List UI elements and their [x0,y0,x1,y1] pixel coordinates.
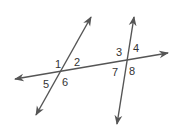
angle-label-8: 8 [129,65,135,77]
angle-label-4: 4 [133,42,139,54]
angle-label-2: 2 [74,56,80,68]
angles-diagram: 1 2 5 6 3 4 7 8 [0,0,179,130]
angle-label-6: 6 [62,76,68,88]
horizontal-line [15,53,168,79]
left-transversal [36,17,91,115]
angle-label-3: 3 [116,46,122,58]
angle-label-1: 1 [55,58,61,70]
angle-label-7: 7 [112,66,118,78]
angle-label-5: 5 [43,78,49,90]
